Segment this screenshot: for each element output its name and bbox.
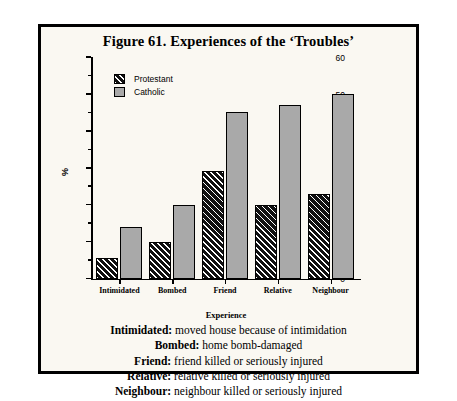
legend-label: Protestant: [134, 74, 173, 84]
footnote-term: Bombed:: [155, 339, 200, 351]
footnote-line: Neighbour: neighbour killed or seriously…: [41, 384, 416, 399]
footnote-text: friend killed or seriously injured: [171, 355, 323, 367]
x-tick: [225, 279, 227, 284]
footnote-line: Bombed: home bomb-damaged: [41, 338, 416, 353]
x-tick-label: Bombed: [158, 286, 186, 295]
bar-catholic-relative: [279, 105, 301, 279]
chart-title: Figure 61. Experiences of the ‘Troubles’: [41, 33, 416, 50]
footnote-term: Friend:: [134, 355, 171, 367]
x-tick-label: Neighbour: [312, 286, 348, 295]
bar-catholic-bombed: [173, 205, 195, 279]
bar-protestant-friend: [202, 171, 224, 278]
y-axis-title: %: [60, 168, 70, 176]
footnote-term: Neighbour:: [115, 385, 171, 397]
x-tick: [331, 279, 333, 284]
gray-swatch: [114, 87, 125, 97]
chart-legend: ProtestantCatholic: [114, 74, 173, 100]
x-axis-title: Experience: [91, 310, 361, 320]
x-tick: [172, 279, 174, 284]
footnote-text: moved house because of intimidation: [172, 324, 347, 336]
footnote-term: Relative:: [127, 370, 171, 382]
footnote-line: Relative: relative killed or seriously i…: [41, 369, 416, 384]
bar-protestant-neighbour: [308, 194, 330, 279]
bar-group: Relative: [255, 56, 308, 279]
footnote-text: home bomb-damaged: [199, 339, 302, 351]
x-tick-label: Relative: [264, 286, 292, 295]
bar-group: Neighbour: [308, 56, 361, 279]
bar-catholic-intimidated: [120, 227, 142, 279]
bar-catholic-friend: [226, 112, 248, 278]
footnote-line: Intimidated: moved house because of inti…: [41, 323, 416, 338]
x-tick: [119, 279, 121, 284]
x-tick-label: Intimidated: [99, 286, 139, 295]
x-tick: [278, 279, 280, 284]
footnote-text: relative killed or seriously injured: [171, 370, 330, 382]
bar-protestant-intimidated: [96, 258, 118, 278]
bar-protestant-relative: [255, 205, 277, 279]
legend-item-protestant: Protestant: [114, 74, 173, 84]
figure-frame: Figure 61. Experiences of the ‘Troubles’…: [38, 24, 419, 374]
legend-label: Catholic: [134, 87, 165, 97]
footnote-line: Friend: friend killed or seriously injur…: [41, 354, 416, 369]
hatched-black-swatch: [114, 74, 125, 84]
legend-item-catholic: Catholic: [114, 87, 173, 97]
footnote-term: Intimidated:: [110, 324, 172, 336]
x-tick-label: Friend: [213, 286, 236, 295]
bar-protestant-bombed: [149, 242, 171, 279]
footnotes-block: Intimidated: moved house because of inti…: [41, 323, 416, 399]
bar-group: Friend: [203, 56, 256, 279]
bar-catholic-neighbour: [332, 94, 354, 279]
footnote-text: neighbour killed or seriously injured: [171, 385, 342, 397]
